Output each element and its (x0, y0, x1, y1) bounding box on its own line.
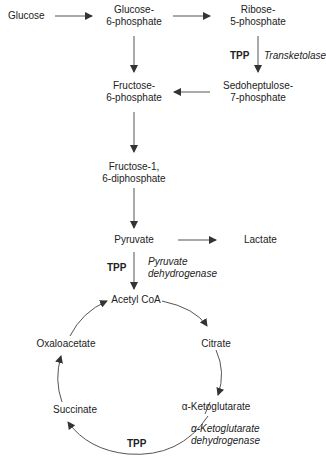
node-glucose: Glucose (8, 10, 45, 22)
node-lactate: Lactate (244, 234, 277, 246)
node-glucose-6-phosphate: Glucose- 6-phosphate (104, 4, 164, 28)
cofactor-tpp-transketolase: TPP (230, 50, 249, 62)
arc-citrate-to-akg (216, 350, 222, 395)
node-alpha-ketoglutarate: α-Ketoglutarate (178, 401, 254, 413)
enzyme-label-line: α-Ketoglutarate (191, 423, 260, 435)
node-label-line: Fructose- (104, 80, 164, 92)
node-succinate: Succinate (48, 404, 102, 416)
node-label-line: Fructose-1, (100, 161, 168, 173)
node-ribose-5-phosphate: Ribose- 5-phosphate (228, 4, 288, 28)
node-label-line: Ribose- (228, 4, 288, 16)
node-pyruvate: Pyruvate (112, 234, 156, 246)
enzyme-alpha-ketoglutarate-dehydrogenase: α-Ketoglutarate dehydrogenase (191, 423, 260, 447)
enzyme-label-line: dehydrogenase (191, 435, 260, 447)
arc-oxaloacetate-to-acetylcoa (70, 301, 107, 336)
enzyme-transketolase: Transketolase (264, 50, 326, 62)
node-label-line: Sedoheptulose- (218, 80, 298, 92)
node-citrate: Citrate (196, 338, 236, 350)
node-label-line: 6-phosphate (104, 16, 164, 28)
enzyme-pyruvate-dehydrogenase: Pyruvate dehydrogenase (148, 256, 217, 280)
node-fructose-1-6-diphosphate: Fructose-1, 6-diphosphate (100, 161, 168, 185)
node-label-line: 5-phosphate (228, 16, 288, 28)
enzyme-label-line: Pyruvate (148, 256, 217, 268)
node-sedoheptulose-7-phosphate: Sedoheptulose- 7-phosphate (218, 80, 298, 104)
node-oxaloacetate: Oxaloacetate (36, 338, 96, 350)
arc-acetylcoa-to-citrate (162, 301, 207, 326)
cofactor-tpp-akg-dehydrogenase: TPP (127, 438, 146, 450)
enzyme-label-line: dehydrogenase (148, 268, 217, 280)
node-label-line: 7-phosphate (218, 92, 298, 104)
node-label-line: Glucose- (104, 4, 164, 16)
node-label-line: 6-phosphate (104, 92, 164, 104)
cofactor-tpp-pyruvate-dehydrogenase: TPP (107, 262, 126, 274)
arc-succinate-to-oxaloacetate (58, 356, 62, 402)
node-fructose-6-phosphate: Fructose- 6-phosphate (104, 80, 164, 104)
node-acetyl-coa: Acetyl CoA (110, 294, 162, 306)
node-label-line: 6-diphosphate (100, 173, 168, 185)
